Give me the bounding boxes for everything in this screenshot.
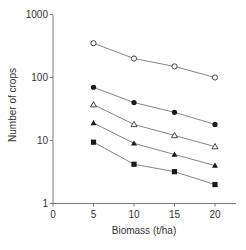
series-open-circle <box>91 41 218 80</box>
y-tick-label: 1000 <box>26 9 49 20</box>
data-point-circle-open <box>131 56 136 61</box>
series-open-triangle <box>91 102 219 149</box>
y-axis-title: Number of crops <box>7 68 18 142</box>
data-point-triangle-open <box>91 102 97 107</box>
data-point-circle-filled <box>131 100 136 105</box>
data-point-square-filled <box>131 162 136 167</box>
x-axis-title: Biomass (t/ha) <box>112 225 176 236</box>
series-filled-triangle <box>91 120 219 168</box>
y-tick-label: 100 <box>31 72 48 83</box>
data-point-triangle-filled <box>91 120 97 125</box>
data-point-triangle-filled <box>131 140 137 145</box>
series-filled-square <box>91 140 218 188</box>
series-line <box>94 43 216 77</box>
data-point-square-filled <box>91 140 96 145</box>
axes <box>53 15 236 204</box>
series-line <box>94 123 216 166</box>
data-point-circle-open <box>172 64 177 69</box>
x-tick-label: 15 <box>169 209 181 220</box>
series-line <box>94 87 216 124</box>
y-tick-label: 10 <box>37 135 49 146</box>
x-ticks: 05101520 <box>50 204 221 220</box>
data-point-circle-open <box>91 41 96 46</box>
series-group <box>91 41 219 188</box>
data-point-circle-filled <box>172 110 177 115</box>
series-filled-circle <box>91 85 218 127</box>
x-tick-label: 0 <box>50 209 56 220</box>
data-point-square-filled <box>172 169 177 174</box>
y-ticks: 1101001000 <box>26 9 53 209</box>
data-point-circle-filled <box>91 85 96 90</box>
series-line <box>94 105 216 147</box>
chart: 1101001000 05101520 Number of crops Biom… <box>0 0 246 250</box>
x-tick-label: 20 <box>209 209 221 220</box>
data-point-square-filled <box>212 182 217 187</box>
data-point-triangle-open <box>131 121 137 126</box>
x-tick-label: 10 <box>128 209 140 220</box>
y-tick-label: 1 <box>42 198 48 209</box>
data-point-circle-filled <box>212 122 217 127</box>
data-point-circle-open <box>212 75 217 80</box>
x-tick-label: 5 <box>91 209 97 220</box>
